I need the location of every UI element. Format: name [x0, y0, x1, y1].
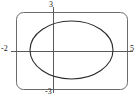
y-axis-negative-intercept-label: -3: [45, 88, 52, 96]
x-axis-negative-intercept-label: -2: [1, 45, 8, 53]
x-axis-positive-intercept-label: 5: [130, 45, 134, 53]
figure-container: 3 -3 -2 5: [0, 0, 139, 99]
y-axis-positive-intercept-label: 3: [49, 1, 53, 9]
plot-area: [0, 0, 139, 99]
